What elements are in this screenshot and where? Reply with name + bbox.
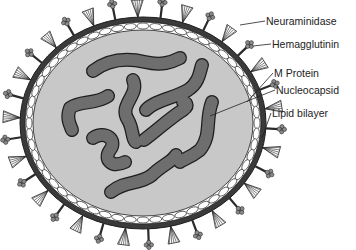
neuraminidase-spike bbox=[50, 204, 64, 221]
hemagglutinin-spike bbox=[168, 226, 180, 244]
hemagglutinin-spike bbox=[41, 31, 57, 48]
hemagglutinin-spike bbox=[70, 215, 83, 233]
m-protein-bead bbox=[26, 117, 32, 129]
neuraminidase-spike bbox=[94, 223, 103, 243]
neuraminidase-spike bbox=[203, 12, 214, 31]
influenza-virus-diagram: Neuraminidase Hemagglutinin M Protein Nu… bbox=[0, 0, 356, 250]
neuraminidase-spike bbox=[255, 166, 274, 178]
m-protein-bead bbox=[137, 23, 149, 29]
neuraminidase-spike bbox=[230, 198, 244, 214]
m-protein-bead bbox=[137, 217, 149, 223]
neuraminidase-spike bbox=[61, 17, 73, 35]
leader-hemagglutinin bbox=[253, 44, 271, 46]
label-hemagglutinin: Hemagglutinin bbox=[272, 38, 339, 50]
neuraminidase-spike bbox=[25, 49, 42, 63]
hemagglutinin-spike bbox=[244, 183, 261, 198]
label-lipid-bilayer: Lipid bilayer bbox=[272, 107, 328, 119]
hemagglutinin-spike bbox=[32, 190, 48, 206]
hemagglutinin-spike bbox=[131, 0, 143, 17]
neuraminidase-spike bbox=[266, 125, 287, 134]
hemagglutinin-spike bbox=[251, 58, 269, 72]
neuraminidase-spike bbox=[158, 0, 167, 18]
hemagglutinin-spike bbox=[3, 111, 20, 123]
hemagglutinin-spike bbox=[118, 228, 130, 246]
neuraminidase-spike bbox=[1, 135, 21, 144]
hemagglutinin-spike bbox=[82, 8, 94, 26]
label-m-protein: M Protein bbox=[274, 67, 319, 79]
label-neuraminidase: Neuraminidase bbox=[266, 15, 337, 27]
label-nucleocapsid: Nucleocapsid bbox=[276, 84, 339, 96]
hemagglutinin-spike bbox=[8, 156, 26, 168]
neuraminidase-spike bbox=[108, 0, 117, 20]
hemagglutinin-spike bbox=[13, 67, 31, 80]
hemagglutinin-spike bbox=[182, 5, 194, 23]
neuraminidase-spike bbox=[18, 174, 36, 187]
neuraminidase-spike bbox=[238, 41, 254, 56]
neuraminidase-spike bbox=[3, 89, 23, 98]
leader-neuraminidase bbox=[240, 21, 265, 25]
hemagglutinin-spike bbox=[212, 211, 226, 229]
hemagglutinin-spike bbox=[263, 146, 281, 158]
neuraminidase-spike bbox=[192, 220, 202, 240]
m-protein-bead bbox=[254, 117, 260, 129]
hemagglutinin-spike bbox=[222, 24, 237, 41]
neuraminidase-spike bbox=[144, 229, 153, 250]
